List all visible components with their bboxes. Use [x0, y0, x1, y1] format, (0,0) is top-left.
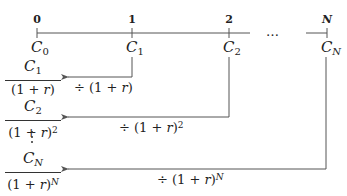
timeline-ellipsis: …	[266, 25, 281, 38]
cash-flow-c0: C0	[31, 40, 49, 57]
vertical-ellipsis	[31, 131, 34, 146]
discount-operator-n: ÷ (1 + r)N	[157, 173, 224, 186]
discount-arrow-1	[68, 57, 132, 77]
cash-flow-cn: CN	[321, 40, 341, 57]
pv-denominator-n: (1 + r)N	[5, 175, 61, 192]
pv-numerator-2: C2	[5, 98, 61, 119]
pv-numerator-n: CN	[5, 150, 61, 171]
cash-flow-c1: C1	[126, 40, 144, 57]
pv-numerator-1: C1	[5, 58, 61, 79]
discount-arrow-n	[68, 57, 326, 169]
period-label-2: 2	[225, 14, 233, 25]
discount-operator-1: ÷ (1 + r)	[74, 81, 133, 94]
period-label-n: N	[322, 14, 332, 25]
cash-flow-c2: C2	[223, 40, 241, 57]
pv-fraction-n: CN (1 + r)N	[5, 150, 61, 192]
period-label-1: 1	[128, 14, 136, 25]
pv-fraction-1: C1 (1 + r)	[5, 58, 61, 97]
period-label-0: 0	[33, 14, 41, 25]
discount-operator-2: ÷ (1 + r)2	[119, 121, 184, 134]
fraction-bar	[5, 120, 61, 121]
pv-denominator-1: (1 + r)	[5, 83, 61, 97]
fraction-bar	[5, 80, 61, 81]
fraction-bar	[5, 172, 61, 173]
